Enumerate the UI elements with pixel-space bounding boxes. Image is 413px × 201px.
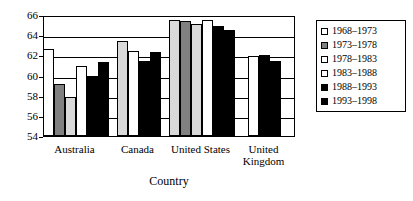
bar (180, 21, 191, 136)
bar (150, 52, 161, 136)
x-axis-category-label: UnitedKingdom (224, 143, 303, 167)
bar (128, 51, 139, 136)
y-axis-tick-label: 66 (6, 10, 38, 21)
x-axis-category-label-line: United (224, 143, 303, 155)
x-axis-category-label-line: Kingdom (224, 155, 303, 167)
legend-swatch-icon (321, 98, 328, 105)
legend-item: 1968–1973 (321, 24, 402, 38)
legend: 1968–19731973–19781978–19831983–19881988… (316, 20, 406, 112)
bar (139, 61, 150, 136)
legend-swatch-icon (321, 84, 328, 91)
y-axis-tick-label: 56 (6, 111, 38, 122)
legend-item-label: 1978–1983 (332, 54, 377, 64)
bar (54, 84, 65, 136)
bar (202, 20, 213, 136)
x-axis-title: Country (43, 174, 295, 189)
bar (169, 20, 180, 136)
y-axis-tick-label: 62 (6, 50, 38, 61)
bar-chart-figure: 66646260585654 AustraliaCanadaUnited Sta… (0, 0, 413, 201)
y-axis-tick-mark (39, 137, 43, 138)
bar (213, 26, 224, 136)
y-axis-tick-label: 60 (6, 71, 38, 82)
legend-item: 1973–1978 (321, 38, 402, 52)
bar (65, 97, 76, 136)
legend-swatch-icon (321, 28, 328, 35)
bar (98, 62, 109, 136)
bar (270, 61, 281, 136)
bar (76, 66, 87, 136)
legend-swatch-icon (321, 70, 328, 77)
bar (191, 24, 202, 136)
legend-item: 1978–1983 (321, 52, 402, 66)
legend-item-label: 1988–1993 (332, 82, 377, 92)
legend-item-label: 1993–1998 (332, 96, 377, 106)
plot-area (43, 16, 295, 137)
legend-item: 1993–1998 (321, 94, 402, 108)
bar (117, 41, 128, 136)
legend-item-label: 1968–1973 (332, 26, 377, 36)
legend-item-label: 1973–1978 (332, 40, 377, 50)
y-axis-tick-label: 64 (6, 30, 38, 41)
bar (43, 49, 54, 136)
bar (248, 56, 259, 136)
legend-item-label: 1983–1988 (332, 68, 377, 78)
y-axis-tick-label: 54 (6, 131, 38, 142)
legend-item: 1983–1988 (321, 66, 402, 80)
bar (87, 76, 98, 137)
legend-item: 1988–1993 (321, 80, 402, 94)
legend-swatch-icon (321, 56, 328, 63)
bar (224, 30, 235, 136)
bar (259, 55, 270, 136)
legend-swatch-icon (321, 42, 328, 49)
y-axis-tick-label: 58 (6, 91, 38, 102)
